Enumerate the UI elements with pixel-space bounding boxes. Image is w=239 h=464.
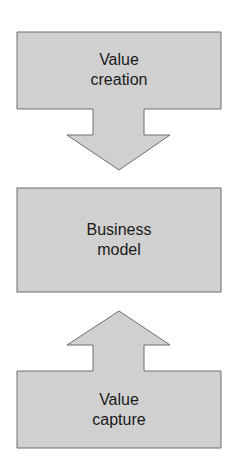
value-capture-label: Value capture <box>17 390 221 430</box>
business-model-label: Business model <box>17 220 221 260</box>
value-creation-line2: creation <box>17 70 221 90</box>
value-creation-label: Value creation <box>17 50 221 90</box>
value-capture-line2: capture <box>17 410 221 430</box>
business-model-line2: model <box>17 240 221 260</box>
business-model-line1: Business <box>17 220 221 240</box>
value-capture-line1: Value <box>17 390 221 410</box>
value-creation-line1: Value <box>17 50 221 70</box>
